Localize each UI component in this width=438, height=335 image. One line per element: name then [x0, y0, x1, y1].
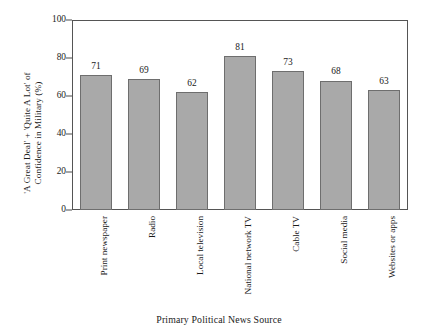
bar[interactable]	[128, 79, 160, 210]
y-axis-tick-labels: 020406080100	[40, 0, 66, 335]
bar[interactable]	[80, 75, 112, 210]
bar[interactable]	[224, 56, 256, 210]
bar-group[interactable]: 81	[224, 20, 256, 210]
y-axis-tick-label: 40	[40, 129, 66, 138]
bar-value-label: 63	[379, 77, 388, 86]
bar[interactable]	[176, 92, 208, 210]
bar-group[interactable]: 69	[128, 20, 160, 210]
bar-chart-figure: 'A Great Deal' + 'Quite A Lot' of Confid…	[0, 0, 438, 335]
y-axis-tick-label: 60	[40, 91, 66, 100]
x-axis-tick-label: Cable TV	[292, 216, 301, 252]
bar[interactable]	[368, 90, 400, 210]
bars-layer: 71696281736863	[72, 20, 408, 210]
y-axis-title-line-1: 'A Great Deal' + 'Quite A Lot' of	[22, 72, 33, 194]
bar-value-label: 69	[139, 66, 148, 75]
x-axis-tick-label: Print newspaper	[100, 216, 109, 275]
bar-group[interactable]: 71	[80, 20, 112, 210]
bar-group[interactable]: 68	[320, 20, 352, 210]
bar-value-label: 71	[91, 62, 100, 71]
bar[interactable]	[272, 71, 304, 210]
x-axis-tick-label: Websites or apps	[388, 216, 397, 278]
bar-value-label: 68	[331, 67, 340, 76]
bar-value-label: 81	[235, 43, 244, 52]
y-axis-tick-label: 80	[40, 53, 66, 62]
x-axis-title: Primary Political News Source	[0, 314, 438, 325]
y-axis-tick-label: 0	[40, 205, 66, 214]
x-axis-tick-label: Local television	[196, 216, 205, 275]
bar-group[interactable]: 63	[368, 20, 400, 210]
bar[interactable]	[320, 81, 352, 210]
x-axis-tick-labels: Print newspaperRadioLocal televisionNati…	[72, 210, 408, 310]
bar-group[interactable]: 62	[176, 20, 208, 210]
bar-value-label: 62	[187, 79, 196, 88]
x-axis-tick-label: National network TV	[244, 216, 253, 294]
y-axis-tick-label: 20	[40, 167, 66, 176]
x-axis-tick-label: Radio	[148, 216, 157, 238]
bar-group[interactable]: 73	[272, 20, 304, 210]
y-axis-tick-label: 100	[40, 15, 66, 24]
x-axis-tick-label: Social media	[340, 216, 349, 264]
bar-value-label: 73	[283, 58, 292, 67]
